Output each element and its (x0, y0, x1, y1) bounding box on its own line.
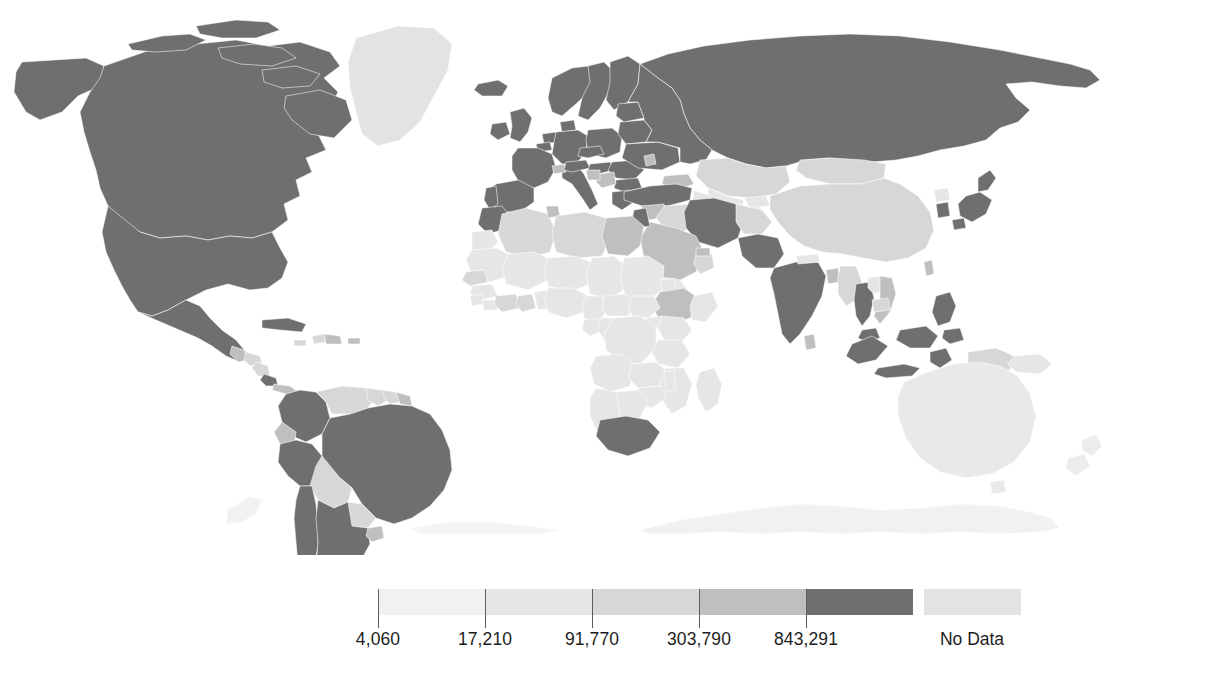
country-cambodia (872, 298, 890, 312)
country-croatia (586, 170, 600, 180)
country-japan-kyushu (952, 218, 966, 230)
legend-label-4: 303,790 (667, 629, 731, 650)
choropleth-figure: 4,060 17,210 91,770 303,790 843,291 No D… (0, 0, 1211, 682)
country-chile (294, 486, 318, 555)
country-north-korea (934, 188, 950, 202)
legend-labels: 4,060 17,210 91,770 303,790 843,291 (0, 629, 1211, 653)
legend-tick-2 (485, 589, 486, 628)
legend-tick-5 (806, 589, 807, 628)
legend-tick-1 (378, 589, 379, 628)
legend-label-5: 843,291 (774, 629, 838, 650)
country-south-korea (936, 202, 950, 218)
legend: 4,060 17,210 91,770 303,790 843,291 No D… (0, 583, 1211, 653)
legend-tick-3 (592, 589, 593, 628)
legend-label-2: 17,210 (458, 629, 512, 650)
country-moldova (644, 154, 656, 166)
country-puerto-rico (348, 338, 360, 344)
country-tasmania (990, 480, 1006, 494)
country-sri-lanka (804, 334, 816, 350)
country-libya (552, 212, 610, 258)
country-taiwan (924, 260, 934, 276)
legend-no-data-label: No Data (940, 629, 1004, 650)
country-nepal (796, 254, 820, 264)
world-map-svg (0, 0, 1211, 555)
country-haiti (312, 334, 326, 344)
country-switzerland (552, 164, 566, 174)
legend-tick-4 (699, 589, 700, 628)
legend-label-1: 4,060 (356, 629, 400, 650)
country-jamaica (294, 340, 306, 346)
country-malawi (664, 370, 676, 392)
country-uae (696, 248, 710, 256)
country-algeria (498, 208, 556, 258)
world-map (0, 0, 1211, 555)
legend-label-3: 91,770 (565, 629, 619, 650)
legend-ticks (0, 589, 1211, 629)
